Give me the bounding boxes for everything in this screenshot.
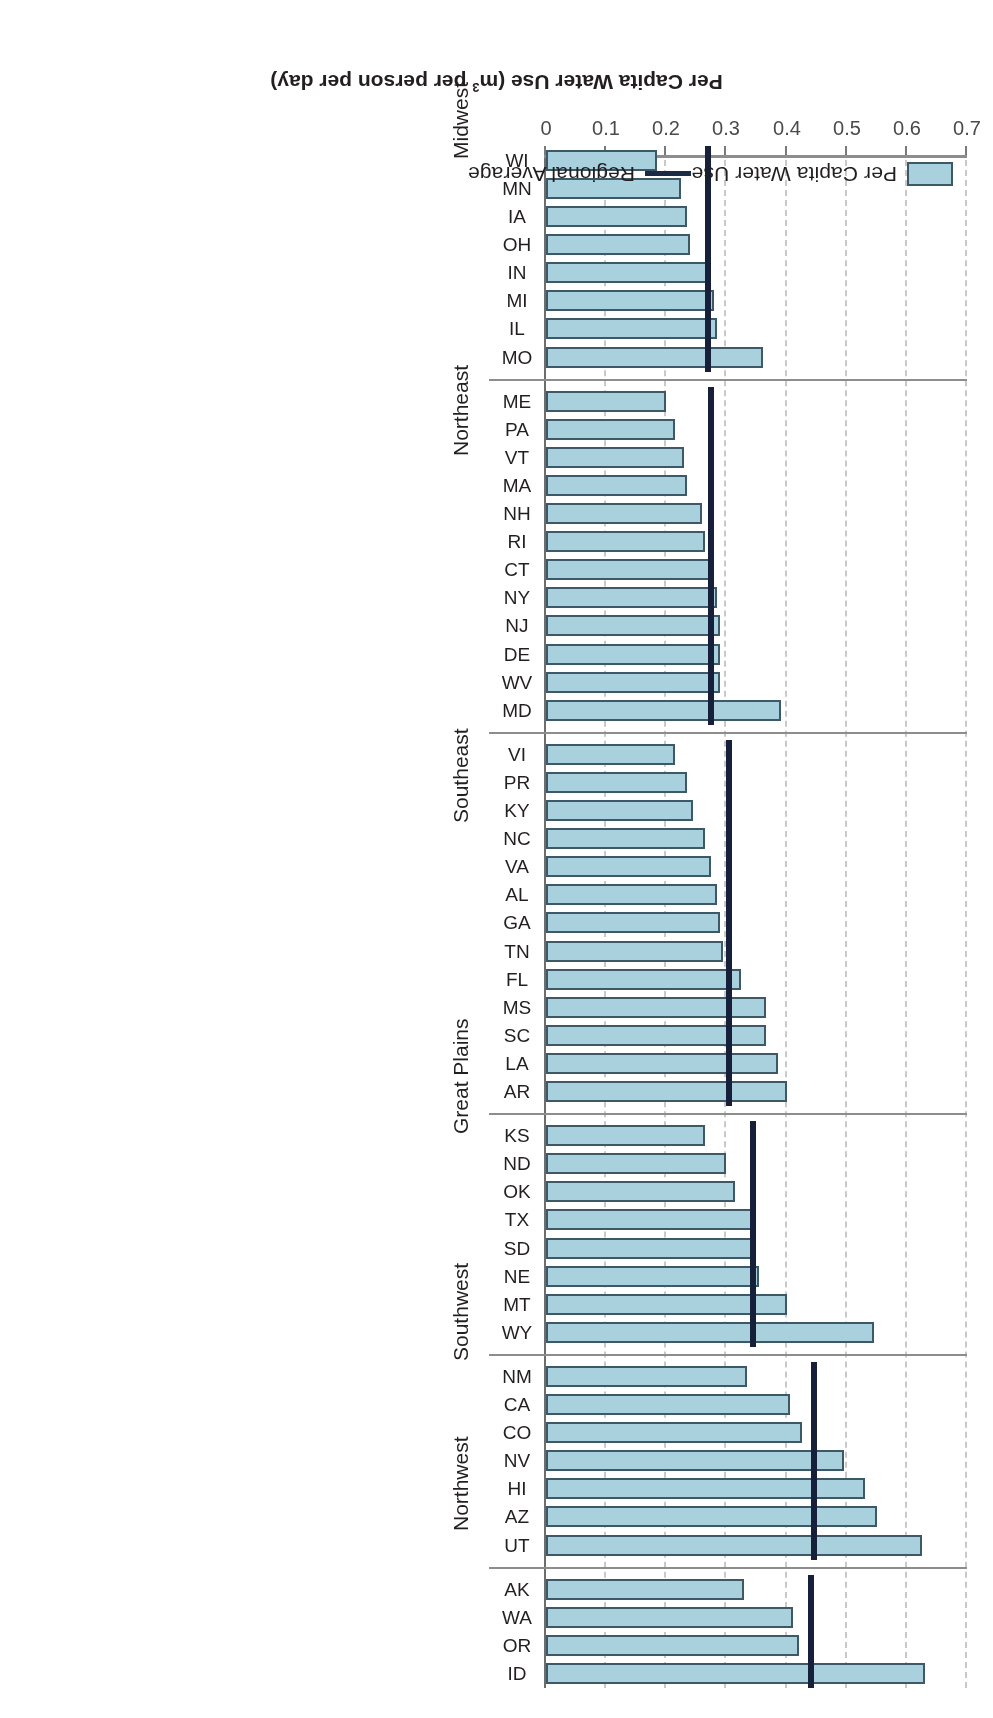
category-label: PA	[493, 419, 541, 441]
bar	[546, 772, 687, 793]
bar	[546, 1579, 744, 1600]
category-label: MT	[493, 1294, 541, 1316]
legend-label-per-capita-water-use: Per Capita Water Use	[692, 162, 897, 186]
bar	[546, 531, 705, 552]
category-label: ME	[493, 391, 541, 413]
bar	[546, 503, 702, 524]
plot-area: 00.10.20.30.40.50.60.7IDORWAAKNorthwestU…	[0, 158, 993, 1718]
category-label: NV	[493, 1450, 541, 1472]
bar	[546, 1450, 844, 1471]
bar	[546, 913, 720, 934]
category-label: VI	[493, 744, 541, 766]
category-label: WV	[493, 672, 541, 694]
bar	[546, 1181, 735, 1202]
category-label: GA	[493, 913, 541, 935]
group-label: Southeast	[449, 623, 473, 823]
category-label: AR	[493, 1081, 541, 1103]
bar	[546, 1153, 726, 1174]
category-label: IL	[493, 319, 541, 341]
bar	[546, 1635, 799, 1656]
group-label: Northeast	[449, 256, 473, 456]
group-label: Northwest	[449, 1331, 473, 1531]
category-label: NM	[493, 1366, 541, 1388]
category-label: AL	[493, 884, 541, 906]
regional-average-line	[808, 1575, 814, 1688]
category-label: CT	[493, 559, 541, 581]
category-label: NC	[493, 828, 541, 850]
category-label: FL	[493, 969, 541, 991]
bar	[546, 1478, 865, 1499]
category-label: TX	[493, 1210, 541, 1232]
bar	[546, 828, 705, 849]
bar	[546, 1535, 922, 1556]
category-label: RI	[493, 531, 541, 553]
category-label: VA	[493, 856, 541, 878]
category-label: TN	[493, 941, 541, 963]
group-separator	[489, 732, 967, 734]
regional-average-line	[708, 387, 714, 725]
category-label: MO	[493, 347, 541, 369]
category-label: MD	[493, 700, 541, 722]
bar	[546, 941, 723, 962]
bar	[546, 744, 675, 765]
group-separator	[489, 379, 967, 381]
bar	[546, 616, 720, 637]
x-axis-title: Per Capita Water Use (m3 per person per …	[0, 70, 993, 95]
bar	[546, 997, 766, 1018]
category-label: ID	[493, 1663, 541, 1685]
legend-bar-swatch-icon	[907, 162, 953, 186]
category-label: AZ	[493, 1507, 541, 1529]
chart-legend: Per Capita Water Use Regional Average	[493, 18, 953, 318]
group-separator	[489, 1354, 967, 1356]
gridline	[845, 160, 847, 1688]
legend-line-swatch-icon	[645, 172, 691, 177]
group-label: Southwest	[449, 1161, 473, 1361]
category-label: OR	[493, 1635, 541, 1657]
bar	[546, 884, 717, 905]
bar	[546, 1663, 925, 1684]
category-label: UT	[493, 1535, 541, 1557]
category-label: OK	[493, 1181, 541, 1203]
category-label: NJ	[493, 616, 541, 638]
bar	[546, 1081, 787, 1102]
bar	[546, 319, 717, 340]
group-separator	[489, 1567, 967, 1569]
bar	[546, 1422, 802, 1443]
group-separator	[489, 1113, 967, 1115]
bar	[546, 856, 711, 877]
rotated-figure-wrapper: 00.10.20.30.40.50.60.7IDORWAAKNorthwestU…	[0, 0, 993, 1718]
category-label: WY	[493, 1322, 541, 1344]
bar	[546, 700, 781, 721]
bar	[546, 672, 720, 693]
bar	[546, 347, 763, 368]
bar	[546, 800, 693, 821]
bar-chart-figure: 00.10.20.30.40.50.60.7IDORWAAKNorthwestU…	[0, 0, 993, 1718]
category-label: AK	[493, 1579, 541, 1601]
bar	[546, 1238, 756, 1259]
category-label: MA	[493, 475, 541, 497]
bar	[546, 1210, 753, 1231]
bar	[546, 1125, 705, 1146]
category-label: KS	[493, 1125, 541, 1147]
category-label: SD	[493, 1238, 541, 1260]
legend-label-regional-average: Regional Average	[468, 162, 635, 186]
category-label: MS	[493, 997, 541, 1019]
group-label: Great Plains	[449, 934, 473, 1134]
bar	[546, 447, 684, 468]
category-label: PR	[493, 772, 541, 794]
bar	[546, 587, 717, 608]
category-label: KY	[493, 800, 541, 822]
category-label: ND	[493, 1153, 541, 1175]
legend-item-regional-average: Regional Average	[468, 162, 691, 186]
bar	[546, 1394, 790, 1415]
bar	[546, 1025, 766, 1046]
category-label: NY	[493, 587, 541, 609]
gridline	[965, 160, 967, 1688]
bar	[546, 1266, 759, 1287]
bar	[546, 1507, 877, 1528]
category-label: WA	[493, 1607, 541, 1629]
category-label: NH	[493, 503, 541, 525]
bar	[546, 419, 675, 440]
category-label: CO	[493, 1422, 541, 1444]
legend-item-per-capita-water-use: Per Capita Water Use	[692, 162, 953, 186]
